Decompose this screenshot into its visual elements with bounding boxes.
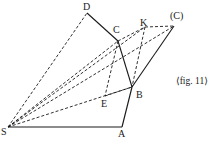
solid-lines: [8, 13, 174, 127]
geometry-diagram: SABCDK(C)E ⟨fig. 11⟩: [0, 0, 221, 146]
point-label-c2: (C): [170, 10, 183, 22]
dashed-segment-s-d: [8, 13, 87, 127]
dashed-segment-c-k: [118, 27, 145, 41]
dashed-lines: [8, 13, 174, 127]
point-labels: SABCDK(C)E: [1, 1, 183, 139]
dashed-segment-s-c2: [8, 26, 174, 127]
point-label-a: A: [118, 128, 126, 139]
figure-caption: ⟨fig. 11⟩: [176, 76, 208, 86]
point-label-c: C: [113, 24, 120, 35]
point-label-s: S: [1, 126, 7, 137]
point-label-d: D: [83, 1, 90, 12]
dashed-segment-k-c2: [145, 26, 174, 27]
point-label-e: E: [101, 98, 107, 109]
dashed-segment-s-k: [8, 27, 145, 127]
point-label-k: K: [140, 17, 148, 28]
point-label-b: B: [136, 89, 143, 100]
dashed-segment-s-b: [8, 87, 132, 127]
dashed-segment-s-c: [8, 41, 118, 127]
solid-segment-a-b: [122, 87, 132, 127]
solid-segment-b-c: [118, 41, 132, 87]
